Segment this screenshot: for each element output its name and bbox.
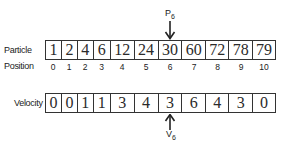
position-index: 10 [253, 61, 275, 73]
position-index: 0 [45, 61, 61, 73]
position-index: 7 [182, 61, 206, 73]
velocity-cell: 0 [253, 94, 275, 112]
particle-array: 1 2 4 6 12 24 30 60 72 78 79 [45, 40, 276, 60]
velocity-cell: 1 [78, 94, 94, 112]
particle-cell: 79 [253, 41, 275, 59]
particle-cell: 1 [46, 41, 62, 59]
particle-cell: 60 [182, 41, 206, 59]
position-row-label: Position [4, 61, 34, 71]
particle-pointer-subscript: 6 [171, 13, 175, 20]
velocity-array: 0 0 1 1 3 4 3 6 4 3 0 [45, 93, 276, 113]
velocity-cell: 4 [135, 94, 159, 112]
particle-cell: 78 [229, 41, 253, 59]
velocity-cell: 4 [206, 94, 229, 112]
velocity-cell: 3 [111, 94, 135, 112]
velocity-row-label: Velocity [14, 98, 43, 108]
velocity-cell: 6 [182, 94, 206, 112]
position-index: 9 [229, 61, 253, 73]
particle-cell: 2 [62, 41, 78, 59]
position-index: 5 [134, 61, 158, 73]
particle-cell: 4 [78, 41, 94, 59]
position-index: 8 [206, 61, 229, 73]
position-index: 1 [61, 61, 77, 73]
particle-row-label: Particle [4, 45, 32, 55]
particle-cell: 12 [111, 41, 135, 59]
particle-cell-highlighted: 30 [159, 41, 183, 59]
velocity-pointer-subscript: 6 [172, 134, 176, 141]
down-arrow-icon [164, 21, 176, 40]
up-arrow-icon [164, 114, 176, 130]
velocity-cell: 1 [94, 94, 111, 112]
particle-cell: 24 [135, 41, 159, 59]
velocity-cell: 0 [46, 94, 62, 112]
velocity-cell-highlighted: 3 [159, 94, 183, 112]
velocity-cell: 0 [62, 94, 78, 112]
position-index: 3 [93, 61, 110, 73]
position-index: 4 [110, 61, 134, 73]
particle-pointer-label: P6 [165, 8, 175, 20]
position-index: 6 [158, 61, 182, 73]
position-indices: 0 1 2 3 4 5 6 7 8 9 10 [45, 61, 276, 73]
particle-cell: 6 [94, 41, 111, 59]
velocity-cell: 3 [229, 94, 253, 112]
velocity-pointer-label: V6 [166, 129, 176, 141]
position-index: 2 [77, 61, 93, 73]
particle-cell: 72 [206, 41, 229, 59]
